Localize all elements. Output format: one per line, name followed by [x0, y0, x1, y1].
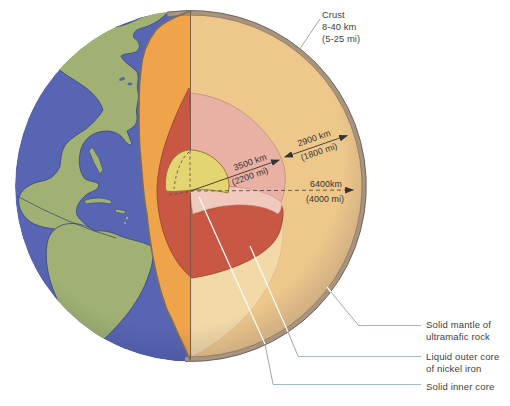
mantle-label-line2: ultramafic rock [426, 331, 490, 342]
diagram-svg: 2900 km (1800 mi) 3500 km (2200 mi) 6400… [0, 0, 510, 406]
mantle-label-line1: Solid mantle of [426, 319, 491, 330]
earth-interior-diagram: 2900 km (1800 mi) 3500 km (2200 mi) 6400… [0, 0, 510, 406]
crust-label-mi: (5-25 mi) [322, 34, 360, 44]
measure-6400-km: 6400km [310, 179, 342, 189]
measure-6400-mi: (4000 mi) [306, 194, 344, 204]
outer-core-label-line1: Liquid outer core [426, 351, 499, 362]
inner-core-label: Solid inner core [426, 381, 494, 392]
arctic-island [84, 14, 99, 23]
crust-label-name: Crust [322, 10, 345, 20]
mantle-leader [327, 287, 421, 326]
outer-core-label-line2: of nickel iron [426, 363, 481, 374]
arctic-island [123, 11, 131, 15]
crust-leader-line [299, 19, 320, 50]
crust-label-km: 8-40 km [322, 22, 356, 32]
arctic-island [107, 13, 117, 17]
